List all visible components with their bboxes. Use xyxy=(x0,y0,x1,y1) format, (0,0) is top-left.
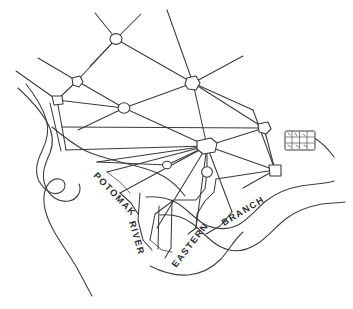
node-upper-left xyxy=(72,76,83,87)
label-river-text: RIVER xyxy=(127,220,146,256)
sketch-map-canvas: POTOMAK RIVER EASTERN BRANCH xyxy=(0,0,353,309)
node-west xyxy=(52,96,63,105)
potomac-river-shoreline xyxy=(18,84,185,296)
node-top xyxy=(110,34,122,45)
node-mid-left xyxy=(118,103,130,113)
label-potomak-text: POTOMAK xyxy=(92,170,139,218)
node-east xyxy=(258,122,271,134)
inset-grid-box xyxy=(285,131,315,150)
map-drawing: POTOMAK RIVER EASTERN BRANCH xyxy=(0,0,353,309)
node-upper-right xyxy=(185,76,200,90)
label-eastern-branch: EASTERN BRANCH xyxy=(170,194,267,269)
node-southeast xyxy=(269,165,281,176)
label-eastern-text: EASTERN xyxy=(170,221,211,269)
node-small-hub xyxy=(202,167,213,177)
node-mid-small xyxy=(163,161,172,169)
intersection-nodes xyxy=(52,34,281,178)
street-network-avenues xyxy=(16,10,275,228)
node-hub xyxy=(197,138,217,154)
